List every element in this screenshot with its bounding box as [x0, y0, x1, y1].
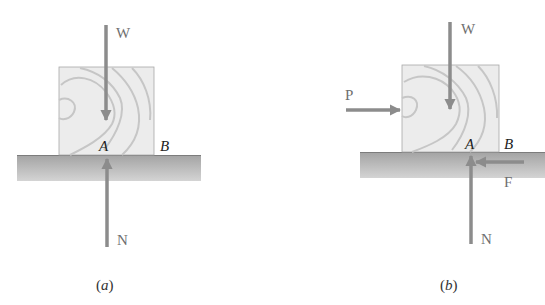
force-label-f: F [504, 175, 512, 190]
panel-b [346, 22, 545, 244]
force-label-n-a: N [117, 233, 128, 248]
caption-a-letter: a [101, 277, 109, 293]
caption-b-letter: b [445, 277, 453, 293]
point-label-a-b: A [465, 137, 474, 152]
force-label-w-b: W [461, 22, 475, 37]
ground-a [17, 155, 201, 181]
caption-a-close: ) [109, 277, 114, 293]
caption-b-close: ) [453, 277, 458, 293]
caption-b: (b) [440, 278, 458, 293]
force-label-p: P [345, 88, 353, 103]
free-body-diagram-canvas [0, 0, 545, 305]
point-label-a-a: A [99, 139, 108, 154]
caption-a: (a) [96, 278, 114, 293]
point-label-b-b: B [504, 137, 513, 152]
point-label-b-a: B [160, 139, 169, 154]
force-label-w-a: W [116, 26, 130, 41]
force-label-n-b: N [481, 232, 492, 247]
ground-b [360, 152, 545, 178]
panel-a [17, 25, 201, 247]
